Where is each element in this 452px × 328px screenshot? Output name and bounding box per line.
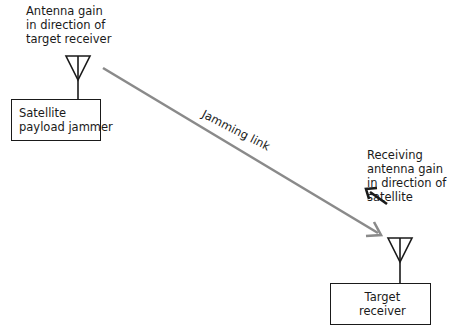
jammer-antenna-icon — [66, 56, 90, 99]
jammer-antenna-gain-label: Antenna gain in direction of target rece… — [26, 4, 111, 46]
jamming-link-arrow — [103, 68, 381, 236]
target-receiver-box: Target receiver — [330, 283, 431, 325]
receiver-box-label: Target receiver — [359, 290, 406, 318]
satellite-payload-jammer-box: Satellite payload jammer — [11, 99, 101, 141]
jammer-box-label: Satellite payload jammer — [19, 106, 113, 134]
receiver-antenna-icon — [388, 238, 412, 283]
receiver-antenna-gain-label: Receiving antenna gain in direction of s… — [367, 148, 446, 204]
